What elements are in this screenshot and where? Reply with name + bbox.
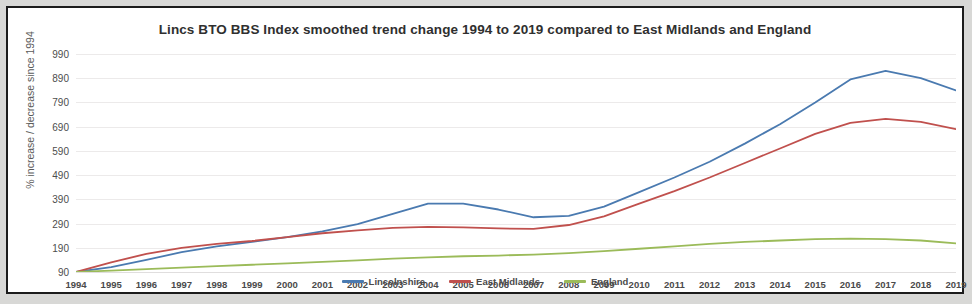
y-axis-tick-label: 390 <box>52 194 76 205</box>
legend-label: England <box>591 276 628 287</box>
chart-title: Lincs BTO BBS Index smoothed trend chang… <box>8 22 962 37</box>
y-axis-tick-label: 490 <box>52 170 76 181</box>
y-axis-tick-label: 290 <box>52 218 76 229</box>
legend-swatch-icon <box>564 280 586 283</box>
plot-area: 99089079069059049039029019090 1994199519… <box>76 54 956 272</box>
gridline <box>76 272 956 273</box>
y-axis-title: % increase / decrease since 1994 <box>24 10 36 210</box>
legend-label: East Midlands <box>476 276 540 287</box>
legend-label: Lincolnshire <box>369 276 425 287</box>
y-axis-tick-label: 990 <box>52 49 76 60</box>
y-axis-tick-label: 590 <box>52 145 76 156</box>
series-line <box>76 119 956 272</box>
y-axis-tick-label: 690 <box>52 121 76 132</box>
legend-item[interactable]: Lincolnshire <box>342 276 425 287</box>
legend-swatch-icon <box>342 280 364 283</box>
series-line <box>76 71 956 272</box>
y-axis-tick-label: 790 <box>52 97 76 108</box>
legend-swatch-icon <box>449 280 471 283</box>
series-lines <box>76 54 956 272</box>
y-axis-tick-label: 890 <box>52 73 76 84</box>
y-axis-tick-label: 190 <box>52 242 76 253</box>
chart-legend: LincolnshireEast MidlandsEngland <box>8 276 962 287</box>
series-line <box>76 239 956 272</box>
chart-frame: Lincs BTO BBS Index smoothed trend chang… <box>6 6 964 294</box>
legend-item[interactable]: East Midlands <box>449 276 540 287</box>
legend-item[interactable]: England <box>564 276 628 287</box>
